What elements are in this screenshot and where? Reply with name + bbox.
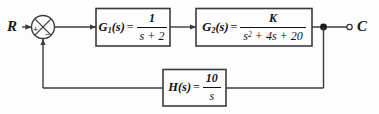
block-diagram: + − R C G1(s) = 1 s + 2 G2(s) = K s2 + 4… [0,0,379,114]
reference-input-label: R [7,19,17,34]
g1-equals: = [127,20,134,35]
g2-function-name: G2(s) [202,20,228,35]
g2-numerator: K [266,11,280,27]
g1-denominator: s + 2 [137,28,168,44]
block-h-expression: H(s) = 10 s [163,70,226,107]
g2-equals: = [231,20,238,35]
h-denominator: s [207,88,218,104]
g1-numerator: 1 [146,11,158,27]
summer-plus-sign: + [33,25,38,34]
g1-fraction: 1 s + 2 [137,11,168,44]
h-equals: = [193,80,200,95]
g2-denominator: s2 + 4s + 20 [240,28,305,44]
h-function-name: H(s) [168,80,191,95]
block-g1-expression: G1(s) = 1 s + 2 [96,9,170,47]
block-g2-expression: G2(s) = K s2 + 4s + 20 [196,9,312,47]
g1-function-name: G1(s) [99,20,125,35]
summer-minus-sign: − [45,30,50,39]
controlled-output-label: C [357,19,367,34]
g2-fraction: K s2 + 4s + 20 [240,11,305,44]
h-fraction: 10 s [203,71,221,104]
output-terminal-circle [347,24,352,29]
h-numerator: 10 [203,71,221,87]
